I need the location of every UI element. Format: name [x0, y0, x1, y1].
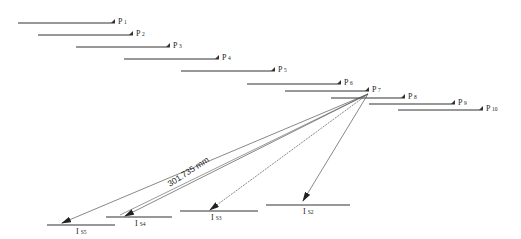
ray-to-is4: [125, 94, 368, 216]
scan-line-p7: P7: [285, 85, 381, 94]
scan-end-marker-icon: [111, 19, 115, 23]
target-is3: IS3: [180, 211, 258, 222]
scan-line-label: P6: [344, 78, 353, 87]
scan-end-marker-icon: [166, 43, 170, 47]
scan-line-p1: P1: [18, 17, 127, 26]
scan-end-marker-icon: [401, 94, 405, 98]
scan-geometry-diagram: P1P2P3P4P5P6P7P8P9P10 IS5IS4IS3IS2 301.7…: [0, 0, 521, 239]
scan-end-marker-icon: [129, 31, 133, 35]
scan-line-label: P8: [408, 92, 417, 101]
target-label: IS4: [135, 219, 146, 228]
scan-line-label: P5: [278, 65, 287, 74]
scan-line-label: P1: [118, 17, 127, 26]
scan-line-p10: P10: [398, 104, 498, 113]
targets-group: IS5IS4IS3IS2: [47, 205, 350, 236]
target-label: IS3: [211, 213, 222, 222]
distance-label: 301.735 mm: [166, 155, 211, 189]
rays-group: [62, 94, 368, 223]
scan-lines-group: P1P2P3P4P5P6P7P8P9P10: [18, 17, 498, 113]
target-is2: IS2: [266, 205, 350, 216]
scan-end-marker-icon: [215, 55, 219, 59]
scan-end-marker-icon: [271, 67, 275, 71]
scan-line-label: P4: [222, 53, 231, 62]
scan-line-label: P10: [486, 104, 498, 113]
scan-end-marker-icon: [365, 87, 369, 91]
ray-to-is5: [62, 94, 368, 223]
scan-line-p9: P9: [369, 98, 467, 107]
scan-line-label: P2: [136, 29, 145, 38]
target-is5: IS5: [47, 225, 115, 236]
scan-end-marker-icon: [337, 80, 341, 84]
ray-to-is3: [210, 94, 368, 210]
target-label: IS2: [303, 207, 314, 216]
scan-line-p4: P4: [124, 53, 231, 62]
scan-line-p3: P3: [76, 41, 182, 50]
scan-line-p5: P5: [181, 65, 287, 74]
scan-line-p2: P2: [38, 29, 145, 38]
scan-line-label: P3: [173, 41, 182, 50]
scan-end-marker-icon: [479, 106, 483, 110]
scan-line-label: P7: [372, 85, 381, 94]
target-is4: IS4: [106, 217, 172, 228]
scan-end-marker-icon: [451, 100, 455, 104]
scan-line-p6: P6: [247, 78, 353, 87]
scan-line-label: P9: [458, 98, 467, 107]
target-label: IS5: [76, 227, 87, 236]
ray-guide: [120, 94, 368, 215]
